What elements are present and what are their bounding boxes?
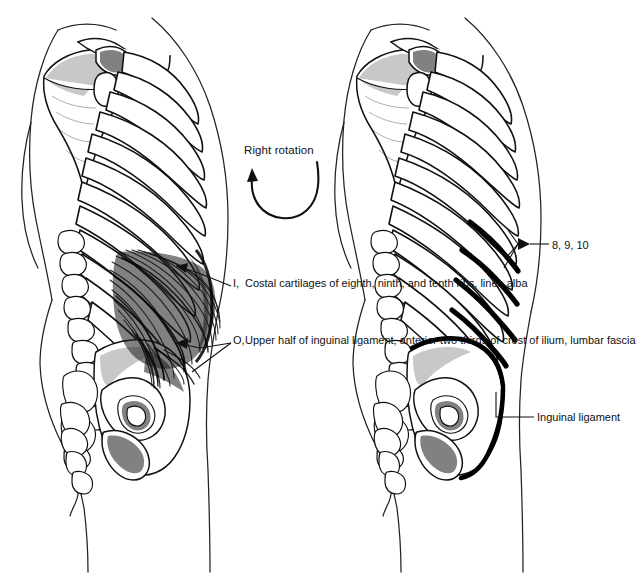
right-figure bbox=[335, 18, 541, 572]
origin-key: O, bbox=[233, 334, 245, 347]
left-figure bbox=[22, 18, 228, 572]
right-rotation-arrow-icon bbox=[247, 162, 318, 218]
insertion-key: I, bbox=[233, 277, 245, 290]
inguinal-ligament-label: Inguinal ligament bbox=[537, 411, 620, 424]
right-rotation-label: Right rotation bbox=[244, 143, 314, 157]
origin-label: O, Upper half of inguinal ligament, ante… bbox=[233, 334, 338, 347]
ribs-8-9-10-label: 8, 9, 10 bbox=[552, 239, 589, 252]
origin-text: Upper half of inguinal ligament, anterio… bbox=[245, 334, 636, 347]
insertion-text: Costal cartilages of eighth, ninth, and … bbox=[245, 277, 528, 290]
insertion-label: I, Costal cartilages of eighth, ninth, a… bbox=[233, 277, 338, 290]
